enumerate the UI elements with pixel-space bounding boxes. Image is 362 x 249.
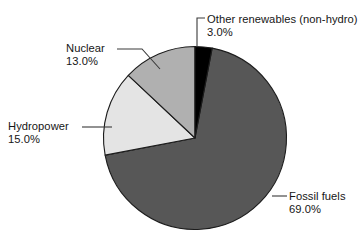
slice-label-other-renewables-name: Other renewables (non-hydro) bbox=[207, 13, 358, 26]
slice-label-fossil-fuels-name: Fossil fuels bbox=[289, 190, 346, 203]
slice-label-nuclear: Nuclear 13.0% bbox=[66, 42, 105, 68]
slice-label-nuclear-value: 13.0% bbox=[66, 55, 105, 68]
pie-chart-figure: Other renewables (non-hydro) 3.0% Nuclea… bbox=[0, 0, 362, 249]
slice-label-hydropower: Hydropower 15.0% bbox=[8, 120, 69, 146]
slice-label-fossil-fuels: Fossil fuels 69.0% bbox=[289, 190, 346, 216]
slice-label-hydropower-name: Hydropower bbox=[8, 120, 69, 133]
pie-slices bbox=[103, 47, 286, 230]
slice-label-other-renewables-value: 3.0% bbox=[207, 26, 358, 39]
slice-label-hydropower-value: 15.0% bbox=[8, 133, 69, 146]
leader-line-other-renewables bbox=[197, 18, 205, 47]
slice-label-other-renewables: Other renewables (non-hydro) 3.0% bbox=[207, 13, 358, 39]
slice-label-nuclear-name: Nuclear bbox=[66, 42, 105, 55]
slice-label-fossil-fuels-value: 69.0% bbox=[289, 203, 346, 216]
